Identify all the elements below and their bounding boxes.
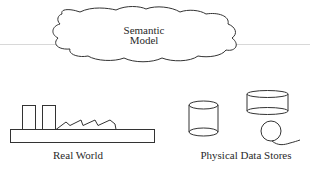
real-world-label: Real World [40,150,116,161]
drum-cylinder-icon [247,91,288,115]
semantic-model-label: Semantic Model [104,25,184,45]
factory-tower-right [43,106,56,130]
factory-sawtooth-roof [56,120,116,130]
tape-reel-icon [261,121,300,145]
semantic-model-label-line2: Model [104,35,184,45]
diagram-canvas: Semantic Model Real World Physical Data … [0,0,310,173]
physical-data-stores-label: Physical Data Stores [186,150,306,161]
factory-base [11,130,155,143]
factory-icon [11,106,155,143]
factory-tower-left [23,106,36,130]
disk-cylinder-icon [189,101,218,136]
